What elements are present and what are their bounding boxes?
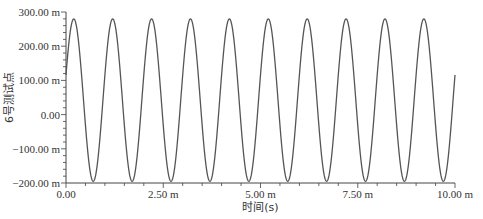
x-tick-label: 0.00 xyxy=(56,188,76,200)
x-axis-ticks: 0.002.50 m5.00 m7.50 m10.00 m xyxy=(56,183,473,200)
x-tick-label: 5.00 m xyxy=(245,188,276,200)
y-tick-label: 100.00 m xyxy=(18,74,60,86)
line-chart: 300.00 m200.00 m100.00 m0.00−100.00 m−20… xyxy=(0,0,483,219)
x-tick-label: 10.00 m xyxy=(437,188,474,200)
y-tick-label: 0.00 xyxy=(41,109,61,121)
y-tick-label: −200.00 m xyxy=(12,177,60,189)
y-axis-ticks: 300.00 m200.00 m100.00 m0.00−100.00 m−20… xyxy=(12,6,66,189)
x-tick-label: 7.50 m xyxy=(342,188,373,200)
x-axis-title: 时间(s) xyxy=(242,201,278,214)
y-tick-label: 200.00 m xyxy=(18,40,60,52)
signal-line xyxy=(66,19,455,181)
y-tick-label: 300.00 m xyxy=(18,6,60,18)
x-tick-label: 2.50 m xyxy=(148,188,179,200)
y-axis-title: 6号测试点 xyxy=(3,72,16,123)
y-tick-label: −100.00 m xyxy=(12,143,60,155)
